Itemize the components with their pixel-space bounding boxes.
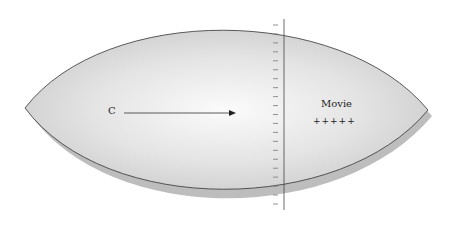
left-label: C bbox=[108, 105, 116, 116]
diagram-canvas bbox=[0, 0, 449, 232]
right-marks: +++++ bbox=[313, 116, 356, 126]
tick-marks bbox=[273, 25, 278, 204]
right-label: Movie bbox=[321, 98, 352, 109]
